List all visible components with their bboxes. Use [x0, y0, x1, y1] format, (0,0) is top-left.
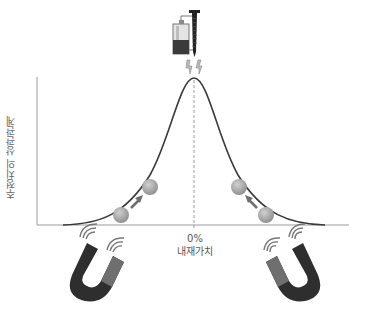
horseshoe-magnet-icon-left	[70, 224, 124, 301]
horseshoe-magnet-icon-right	[264, 224, 320, 301]
battery-nail-electromagnet-icon	[173, 10, 200, 57]
ball-icon	[231, 179, 247, 195]
axes	[37, 77, 349, 228]
x-axis-label: 내재가치	[160, 245, 230, 258]
spark-icon	[186, 60, 202, 74]
x-axis-label-block: 0% 내재가치	[160, 232, 230, 258]
y-axis-label: 추정치의 상관관계	[3, 92, 19, 222]
ball-icon	[113, 207, 129, 223]
ball-icon	[258, 207, 274, 223]
x-axis-tick-label: 0%	[160, 232, 230, 245]
left-balls	[113, 179, 158, 223]
right-balls	[231, 179, 274, 223]
ball-icon	[142, 179, 158, 195]
bell-curve-diagram	[0, 0, 370, 309]
